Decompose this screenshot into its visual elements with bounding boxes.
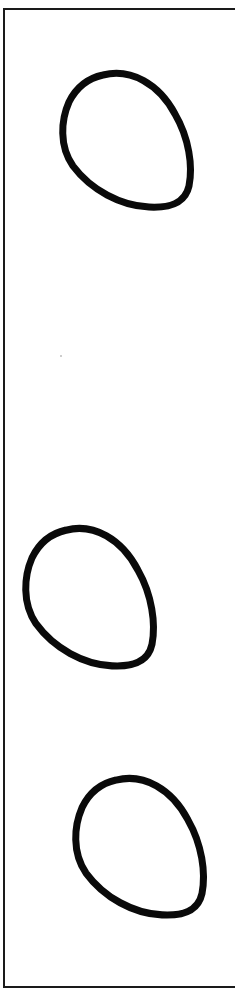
drawing-title: Three egg outlines <box>0 0 1 1</box>
egg-shape-icon <box>59 70 195 212</box>
scan-speck <box>60 355 62 357</box>
egg-outline-3 <box>72 775 208 920</box>
egg-outline-2 <box>22 525 158 671</box>
egg-outline-1 <box>59 70 195 212</box>
egg-shape-icon <box>72 775 208 920</box>
egg-shape-icon <box>22 525 158 671</box>
